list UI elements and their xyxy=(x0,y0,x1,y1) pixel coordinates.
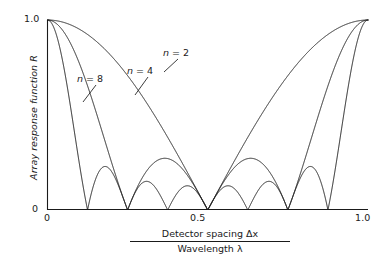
curve-label-n4: n = 4 xyxy=(127,65,153,76)
leader-line-n8 xyxy=(83,85,96,102)
plot-canvas xyxy=(0,0,390,265)
leader-line-n2 xyxy=(164,59,178,72)
leader-line-n4 xyxy=(135,77,148,95)
curve-group xyxy=(48,20,369,210)
array-response-chart: Array response function R 1.0 0 0 0.5 1.… xyxy=(0,0,390,265)
x-axis-title-denominator: Wavelength λ xyxy=(130,242,290,255)
x-axis-title-numerator: Detector spacing Δx xyxy=(130,228,290,242)
curve-label-n2: n = 2 xyxy=(163,47,189,58)
x-tick-label-05: 0.5 xyxy=(190,212,205,223)
x-axis-title: Detector spacing Δx Wavelength λ xyxy=(130,228,290,255)
x-tick-label-0: 0 xyxy=(44,212,50,223)
curve-n2 xyxy=(48,20,369,210)
curve-label-n2-value: = 2 xyxy=(169,47,189,58)
curve-label-n8: n = 8 xyxy=(77,73,103,84)
curve-n8 xyxy=(48,20,369,210)
x-tick-label-10: 1.0 xyxy=(355,212,370,223)
y-tick-label-0: 0 xyxy=(32,203,38,214)
y-axis-title: Array response function R xyxy=(28,23,39,213)
y-tick-label-1: 1.0 xyxy=(24,13,39,24)
curve-label-n8-value: = 8 xyxy=(83,73,103,84)
curve-n4 xyxy=(48,20,369,210)
curve-label-n4-value: = 4 xyxy=(133,65,153,76)
